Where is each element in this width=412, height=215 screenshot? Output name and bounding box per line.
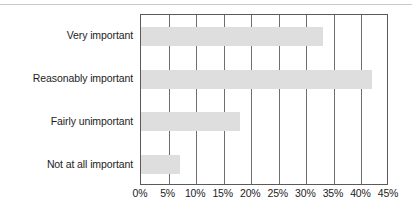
category-axis: Very importantReasonably importantFairly… bbox=[0, 14, 133, 185]
bar bbox=[141, 27, 323, 46]
x-tick-label: 30% bbox=[295, 187, 315, 199]
bar bbox=[141, 112, 240, 131]
x-tick-label: 40% bbox=[350, 187, 370, 199]
x-tick-label: 35% bbox=[323, 187, 343, 199]
plot-area bbox=[140, 14, 388, 185]
x-tick-label: 5% bbox=[160, 187, 175, 199]
category-label: Not at all important bbox=[0, 158, 133, 170]
page-top-rule bbox=[0, 4, 412, 5]
category-label: Reasonably important bbox=[0, 72, 133, 84]
x-axis-tick-labels: 0%5%10%15%20%25%30%35%40%45% bbox=[140, 187, 388, 203]
x-tick-label: 20% bbox=[240, 187, 260, 199]
bar bbox=[141, 70, 372, 89]
bars-layer bbox=[141, 15, 387, 184]
x-tick-label: 0% bbox=[133, 187, 148, 199]
category-label: Fairly unimportant bbox=[0, 115, 133, 127]
bar bbox=[141, 155, 180, 174]
bar-chart-figure: Very importantReasonably importantFairly… bbox=[0, 0, 412, 215]
x-tick-label: 10% bbox=[185, 187, 205, 199]
x-tick-label: 25% bbox=[268, 187, 288, 199]
x-tick-label: 15% bbox=[212, 187, 232, 199]
x-tick-label: 45% bbox=[378, 187, 398, 199]
category-label: Very important bbox=[0, 29, 133, 41]
